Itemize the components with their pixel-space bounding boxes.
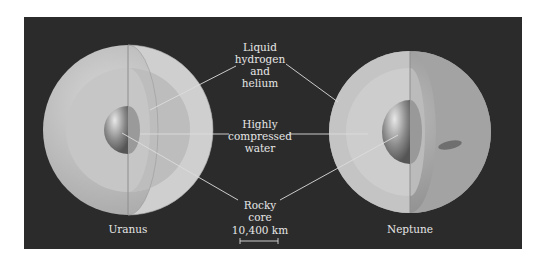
planet-label-neptune: Neptune — [375, 223, 445, 235]
scale-bar-label: 10,400 km — [222, 224, 298, 236]
label-liquid-hydrogen-helium: Liquid hydrogen and helium — [226, 41, 294, 89]
neptune-globe — [329, 51, 491, 213]
label-highly-compressed-water: Highly compressed water — [222, 118, 298, 154]
label-rocky-core: Rocky core — [226, 199, 294, 223]
uranus-globe — [43, 45, 213, 215]
planet-label-uranus: Uranus — [98, 223, 158, 235]
